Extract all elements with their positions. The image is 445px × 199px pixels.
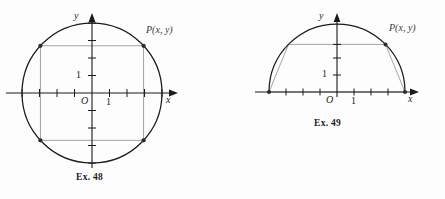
x-axis-label-ex48: x: [166, 94, 170, 105]
x-axis-label-ex49: x: [408, 93, 412, 104]
figures-canvas: [0, 0, 445, 199]
y-axis-arrowhead: [334, 13, 341, 22]
x-unit-label-ex49: 1: [351, 95, 356, 106]
vertex-dot: [38, 138, 42, 142]
vertex-dot: [142, 138, 146, 142]
origin-label-ex48: O: [81, 95, 88, 106]
vertex-dot-p: [142, 44, 146, 48]
x-unit-label-ex48: 1: [106, 96, 111, 107]
y-axis-ex48: [88, 13, 96, 168]
point-label-ex49: P(x, y): [389, 22, 416, 33]
y-axis-arrowhead: [89, 13, 96, 22]
figure-caption-ex48: Ex. 48: [76, 172, 103, 182]
y-unit-label-ex48: 1: [76, 69, 81, 80]
y-axis-ex49: [333, 13, 341, 97]
vertex-dot: [403, 90, 407, 94]
y-unit-label-ex49: 1: [322, 68, 327, 79]
y-axis-label-ex48: y: [74, 10, 78, 21]
vertex-dot: [38, 44, 42, 48]
vertex-dot-p: [384, 42, 388, 46]
y-axis-label-ex49: y: [319, 10, 323, 21]
figure-caption-ex49: Ex. 49: [314, 118, 341, 128]
origin-label-ex49: O: [326, 94, 333, 105]
vertex-dot: [267, 90, 271, 94]
figure-ex48: [6, 13, 178, 168]
point-label-ex48: P(x, y): [146, 24, 173, 35]
